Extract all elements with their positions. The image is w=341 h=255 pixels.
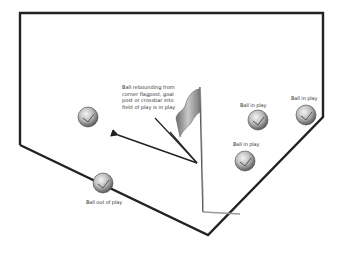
ball-label: Ball in play xyxy=(291,95,317,101)
ball-icon xyxy=(248,110,268,130)
ball-icon xyxy=(235,151,255,171)
ball-label: Ball in play xyxy=(233,141,259,147)
field-boundary xyxy=(20,13,323,235)
field-diagram xyxy=(0,0,341,255)
ball-label: Ball in play xyxy=(240,102,266,108)
ball-icon xyxy=(296,105,316,125)
ball-icon xyxy=(78,107,98,127)
ball-label: Ball out of play xyxy=(86,199,122,205)
rebound-annotation: Ball rebounding from corner flagpost, go… xyxy=(122,84,184,110)
ball-icon xyxy=(93,173,113,193)
